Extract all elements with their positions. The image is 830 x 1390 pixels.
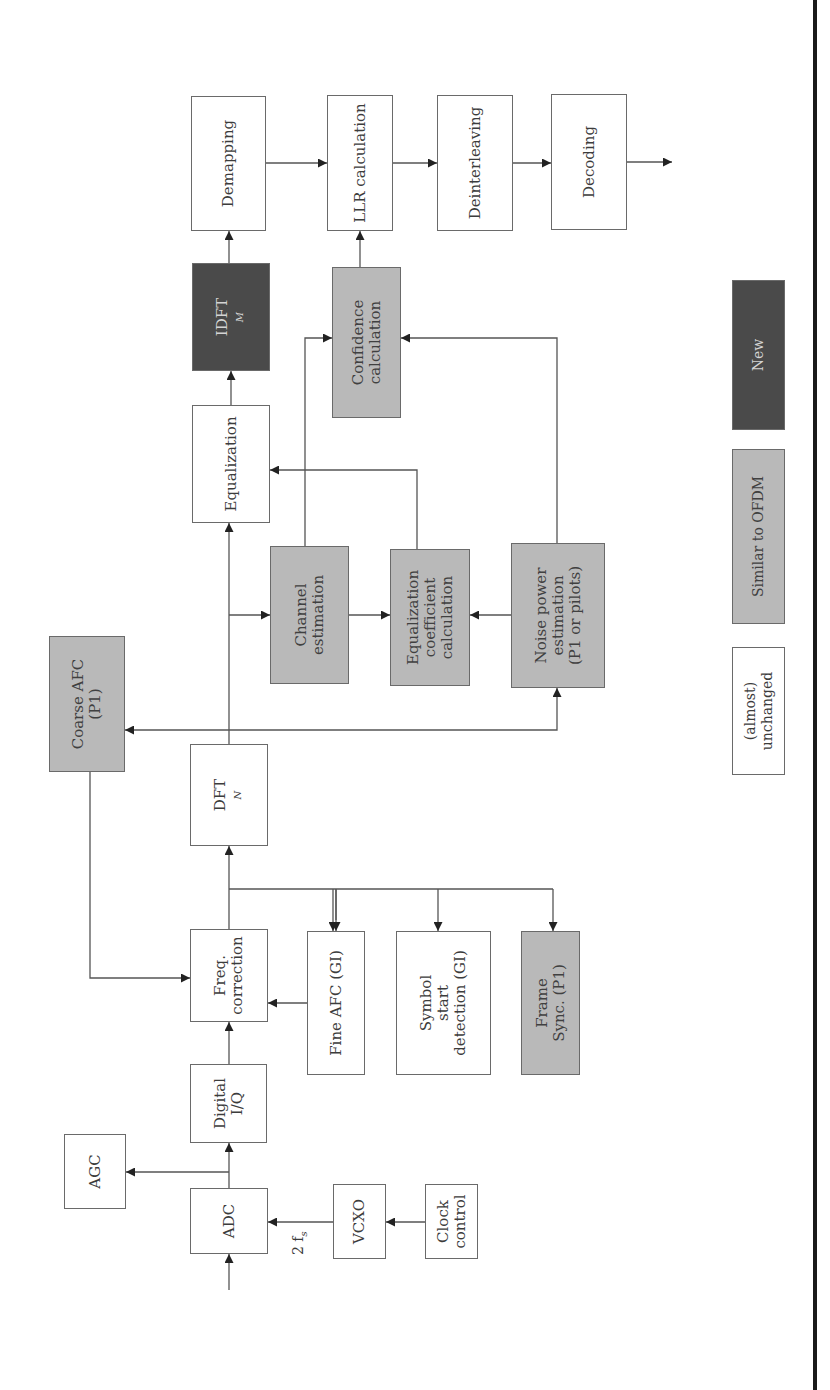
legend-new: New [732,280,785,430]
confidence-label-2: calculation [367,301,384,384]
clock-label-1: Clock [435,1200,452,1243]
deinterleaving-label: Deinterleaving [467,107,484,220]
dft-block: DFTN [190,744,268,846]
dft-sub: N [229,779,246,811]
digital-iq-label-2: I/Q [229,1092,246,1115]
coarse-afc-block: Coarse AFC (P1) [49,636,125,772]
eqcoeff-label-3: calculation [439,576,456,659]
clock-rate-label: 2 fs [290,1231,309,1255]
agc-label: AGC [87,1154,104,1188]
freq-label-1: Freq. [212,955,229,996]
channel-label-2: estimation [310,575,327,655]
digital-iq-block: Digital I/Q [190,1064,267,1143]
page-edge-rule [813,0,817,1390]
channel-estimation-block: Channel estimation [270,546,349,684]
symbol-start-block: Symbol start detection (GI) [396,931,491,1075]
eq-coeff-block: Equalization coefficient calculation [390,549,470,686]
symbol-label-2: start [435,985,452,1021]
eqcoeff-label-1: Equalization [405,570,422,665]
frame-sync-block: Frame Sync. (P1) [521,931,580,1075]
fine-afc-label: Fine AFC (GI) [328,950,345,1056]
demapping-block: Demapping [191,96,266,231]
vcxo-label: VCXO [351,1199,368,1244]
clock-control-block: Clock control [425,1184,478,1259]
digital-iq-label-1: Digital [212,1078,229,1129]
confidence-label-1: Confidence [350,300,367,386]
equalization-block: Equalization [192,405,270,523]
legend-new-label: New [750,339,767,372]
llr-block: LLR calculation [327,95,393,231]
dft-base: DFT [212,779,229,811]
equalization-label: Equalization [223,416,240,511]
decoding-block: Decoding [551,94,627,230]
freq-correction-block: Freq. correction [190,929,268,1022]
agc-block: AGC [64,1134,126,1209]
demapping-label: Demapping [220,120,237,207]
llr-label: LLR calculation [352,103,369,222]
confidence-block: Confidence calculation [332,267,401,418]
idft-base: IDFT [214,298,231,336]
idft-sub: M [231,298,248,336]
clock-label-2: control [452,1194,469,1248]
noise-label-2: estimation [550,575,567,655]
symbol-label-3: detection (GI) [452,950,469,1056]
adc-label: ADC [221,1204,238,1238]
legend-similar: Similar to OFDM [732,449,785,624]
legend-unchanged-label: (almost) unchanged [742,650,776,772]
noise-label-3: (P1 or pilots) [567,566,584,665]
eqcoeff-label-2: coefficient [422,578,439,658]
frame-label-1: Frame [534,978,551,1028]
channel-label-1: Channel [293,583,310,646]
fine-afc-block: Fine AFC (GI) [307,931,365,1075]
idft-block: IDFTM [192,263,270,371]
noise-label-1: Noise power [533,568,550,664]
freq-label-2: correction [229,936,246,1015]
dft-label: DFTN [212,779,246,811]
adc-block: ADC [190,1188,268,1254]
legend-unchanged: (almost) unchanged [732,647,785,775]
deinterleaving-block: Deinterleaving [437,95,513,231]
legend-similar-label: Similar to OFDM [750,476,767,597]
coarse-label-1: Coarse AFC [70,659,87,750]
idft-label: IDFTM [214,298,248,336]
clock-rate-text: 2 f [290,1236,306,1255]
noise-power-block: Noise power estimation (P1 or pilots) [511,543,605,688]
symbol-label-1: Symbol [418,975,435,1031]
receiver-block-diagram: ADC AGC Digital I/Q VCXO Clock control 2… [0,0,830,1390]
clock-rate-sub: s [298,1231,309,1236]
coarse-label-2: (P1) [87,688,104,719]
vcxo-block: VCXO [333,1184,386,1259]
decoding-label: Decoding [581,126,598,198]
frame-label-2: Sync. (P1) [551,964,568,1042]
